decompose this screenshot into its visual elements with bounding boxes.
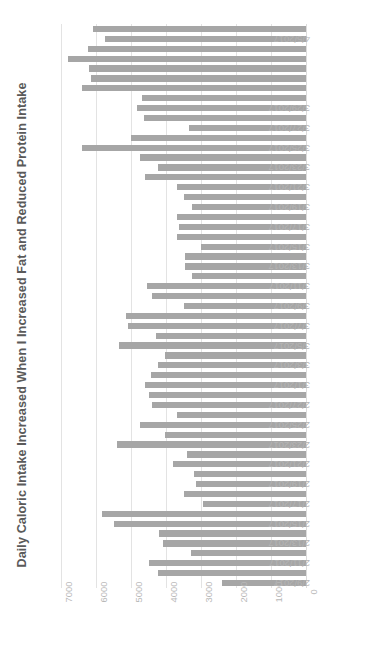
value-axis: 70006000500040003000200010000: [44, 592, 306, 642]
category-tick-label: 3/25/2017: [268, 142, 310, 153]
bar-row[interactable]: [44, 105, 306, 111]
bar-row[interactable]: [44, 451, 306, 457]
bar-row[interactable]: [44, 95, 306, 101]
bar-row[interactable]: [44, 164, 306, 170]
bar-row[interactable]: [44, 194, 306, 200]
category-tick-label: 2/15/2017: [268, 518, 310, 529]
bar[interactable]: [158, 570, 306, 576]
plot-area: [44, 24, 306, 588]
bar[interactable]: [89, 65, 306, 71]
bar-row[interactable]: [44, 560, 306, 566]
bar-row[interactable]: [44, 154, 306, 160]
bar-row[interactable]: [44, 263, 306, 269]
bar-row[interactable]: [44, 432, 306, 438]
bar[interactable]: [142, 95, 306, 101]
bar-row[interactable]: [44, 204, 306, 210]
bar[interactable]: [149, 392, 306, 398]
bar-row[interactable]: [44, 56, 306, 62]
bar[interactable]: [140, 154, 306, 160]
bar-row[interactable]: [44, 342, 306, 348]
bar-row[interactable]: [44, 293, 306, 299]
bar[interactable]: [165, 352, 306, 358]
bar[interactable]: [68, 56, 306, 62]
bar-row[interactable]: [44, 313, 306, 319]
value-tick-label: 4000: [166, 582, 179, 603]
bar[interactable]: [144, 115, 306, 121]
bar-row[interactable]: [44, 362, 306, 368]
bar-row[interactable]: [44, 530, 306, 536]
bar-row[interactable]: [44, 422, 306, 428]
bar[interactable]: [88, 46, 306, 52]
bar-row[interactable]: [44, 392, 306, 398]
category-tick-label: 3/3/2017: [274, 360, 311, 371]
bar-row[interactable]: [44, 234, 306, 240]
value-tick-label: 7000: [61, 582, 74, 603]
bar[interactable]: [177, 214, 306, 220]
bar[interactable]: [191, 550, 306, 556]
bar-row[interactable]: [44, 36, 306, 42]
category-tick-label: 3/15/2017: [268, 241, 310, 252]
bar-row[interactable]: [44, 135, 306, 141]
bar-row[interactable]: [44, 145, 306, 151]
bar-row[interactable]: [44, 65, 306, 71]
bar-row[interactable]: [44, 323, 306, 329]
bar-row[interactable]: [44, 125, 306, 131]
bar-row[interactable]: [44, 283, 306, 289]
bar-row[interactable]: [44, 85, 306, 91]
bar-row[interactable]: [44, 412, 306, 418]
bar-row[interactable]: [44, 540, 306, 546]
bar[interactable]: [82, 85, 306, 91]
bar[interactable]: [93, 26, 306, 32]
bar-row[interactable]: [44, 461, 306, 467]
bar-row[interactable]: [44, 224, 306, 230]
bar[interactable]: [102, 511, 306, 517]
bar-row[interactable]: [44, 214, 306, 220]
bar-row[interactable]: [44, 75, 306, 81]
bar-row[interactable]: [44, 115, 306, 121]
bar-row[interactable]: [44, 372, 306, 378]
bar[interactable]: [91, 75, 306, 81]
bar[interactable]: [177, 412, 306, 418]
category-tick-label: 2/23/2017: [268, 439, 310, 450]
bar-row[interactable]: [44, 402, 306, 408]
bar[interactable]: [187, 451, 306, 457]
category-tick-label: 3/17/2017: [268, 221, 310, 232]
bar[interactable]: [159, 530, 306, 536]
bar-row[interactable]: [44, 471, 306, 477]
bar-row[interactable]: [44, 253, 306, 259]
bar-row[interactable]: [44, 26, 306, 32]
bar[interactable]: [184, 194, 306, 200]
bar-row[interactable]: [44, 184, 306, 190]
bar[interactable]: [192, 273, 306, 279]
bar[interactable]: [177, 234, 306, 240]
bar-row[interactable]: [44, 511, 306, 517]
bar[interactable]: [185, 253, 306, 259]
category-tick-label: 2/27/2017: [268, 399, 310, 410]
bar[interactable]: [151, 372, 306, 378]
bar[interactable]: [194, 471, 306, 477]
bar-row[interactable]: [44, 273, 306, 279]
bar-row[interactable]: [44, 521, 306, 527]
bar-row[interactable]: [44, 441, 306, 447]
category-tick-label: 3/11/2017: [269, 281, 310, 292]
bar[interactable]: [131, 135, 306, 141]
bar-row[interactable]: [44, 501, 306, 507]
bar-row[interactable]: [44, 550, 306, 556]
bar-row[interactable]: [44, 244, 306, 250]
category-tick-label: 2/25/2017: [268, 419, 310, 430]
bar-row[interactable]: [44, 174, 306, 180]
bar-row[interactable]: [44, 491, 306, 497]
bar-row[interactable]: [44, 570, 306, 576]
bar-row[interactable]: [44, 333, 306, 339]
bar[interactable]: [145, 174, 306, 180]
bar-row[interactable]: [44, 303, 306, 309]
bar-row[interactable]: [44, 46, 306, 52]
bar-row[interactable]: [44, 481, 306, 487]
bar[interactable]: [165, 432, 306, 438]
bar-row[interactable]: [44, 382, 306, 388]
bar-row[interactable]: [44, 352, 306, 358]
bar[interactable]: [184, 491, 306, 497]
bar[interactable]: [126, 313, 306, 319]
bar[interactable]: [152, 293, 306, 299]
bar[interactable]: [156, 333, 306, 339]
